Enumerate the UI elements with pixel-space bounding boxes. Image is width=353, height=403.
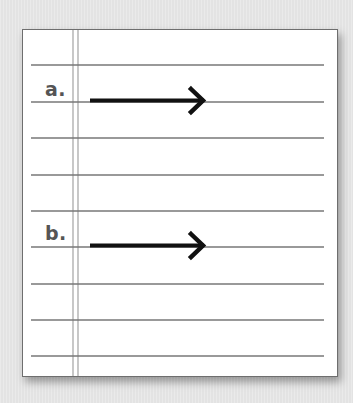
item-label-a: a. [45, 78, 66, 100]
ruled-lines-drawing [0, 0, 353, 403]
item-label-b: b. [45, 222, 67, 244]
right-arrow-icon [92, 89, 203, 112]
ruled-lines [31, 65, 324, 356]
right-arrow-icon [92, 234, 203, 257]
